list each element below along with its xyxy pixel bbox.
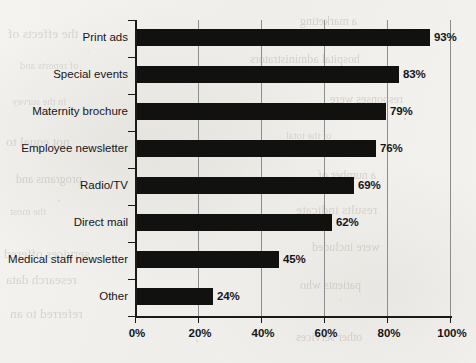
bar-other[interactable]	[137, 288, 213, 305]
category-label-maternity-brochure: Maternity brochure	[32, 105, 128, 117]
y-tick	[128, 20, 135, 21]
bar-value-other: 24%	[217, 290, 240, 302]
x-tick-100	[450, 317, 451, 323]
bar-maternity-brochure[interactable]	[137, 103, 386, 120]
bar-value-print-ads: 93%	[434, 31, 457, 43]
category-label-other: Other	[99, 290, 128, 302]
gridline-20	[198, 20, 199, 317]
x-tick-0	[135, 317, 136, 323]
bar-medical-staff-newsletter[interactable]	[137, 251, 279, 268]
gridline-60	[324, 20, 325, 317]
x-tick-20	[198, 317, 199, 323]
bar-radio-tv[interactable]	[137, 177, 354, 194]
x-tick-60	[324, 317, 325, 323]
y-tick	[128, 94, 135, 95]
bar-value-radio-tv: 69%	[358, 179, 381, 191]
gridline-100	[450, 20, 451, 317]
y-tick	[128, 168, 135, 169]
x-tick-label-100: 100%	[437, 327, 466, 339]
x-tick-label-40: 40%	[251, 327, 274, 339]
bar-chart: 93% 83% 79% 76% 69% 62% 45% 24% Print ad…	[0, 0, 476, 363]
bar-value-maternity-brochure: 79%	[390, 105, 413, 117]
x-tick-label-0: 0%	[129, 327, 146, 339]
gridline-80	[387, 20, 388, 317]
y-axis-line	[135, 20, 137, 318]
bar-special-events[interactable]	[137, 66, 399, 83]
y-tick	[128, 131, 135, 132]
y-tick	[128, 316, 135, 317]
gridline-40	[261, 20, 262, 317]
bar-value-special-events: 83%	[403, 68, 426, 80]
y-tick	[128, 57, 135, 58]
y-tick	[128, 205, 135, 206]
category-label-print-ads: Print ads	[83, 31, 128, 43]
x-tick-label-20: 20%	[188, 327, 211, 339]
category-label-employee-newsletter: Employee newsletter	[21, 142, 128, 154]
category-label-special-events: Special events	[53, 68, 128, 80]
bar-value-direct-mail: 62%	[336, 216, 359, 228]
bar-direct-mail[interactable]	[137, 214, 332, 231]
bar-print-ads[interactable]	[137, 29, 430, 46]
category-label-direct-mail: Direct mail	[74, 216, 128, 228]
x-tick-label-80: 80%	[377, 327, 400, 339]
bar-employee-newsletter[interactable]	[137, 140, 376, 157]
category-label-radio-tv: Radio/TV	[80, 179, 128, 191]
x-tick-label-60: 60%	[314, 327, 337, 339]
bar-value-medical-staff-newsletter: 45%	[283, 253, 306, 265]
y-tick	[128, 242, 135, 243]
x-tick-80	[387, 317, 388, 323]
x-axis-line	[135, 316, 452, 318]
bar-value-employee-newsletter: 76%	[380, 142, 403, 154]
scanned-page: the effects of a marketing of reports an…	[0, 0, 476, 363]
category-label-medical-staff-newsletter: Medical staff newsletter	[8, 253, 128, 265]
x-tick-40	[261, 317, 262, 323]
y-tick	[128, 279, 135, 280]
